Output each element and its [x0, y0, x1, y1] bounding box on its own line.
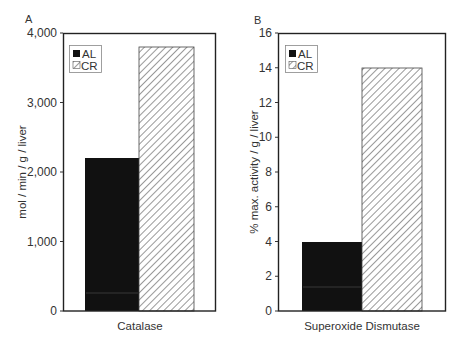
legend-label-al: AL — [298, 48, 313, 60]
legend-b: AL CR — [286, 46, 318, 73]
bar-al-sod — [302, 242, 362, 311]
panel-b-label: B — [254, 14, 261, 26]
y-ticks-a — [60, 33, 63, 311]
y-axis-label-b: % max. activity / g / liver — [248, 110, 260, 234]
y-tick-label: 2 — [265, 269, 272, 283]
legend-swatch-cr — [73, 62, 80, 69]
y-tick-labels-b: 0 2 4 6 8 10 12 14 16 — [259, 26, 273, 318]
y-ticks-b — [275, 33, 278, 311]
y-tick-label: 14 — [259, 61, 273, 75]
x-axis-label-a: Catalase — [117, 320, 162, 332]
legend-swatch-al — [289, 50, 296, 57]
y-tick-label: 6 — [265, 200, 272, 214]
y-tick-label: 2,000 — [27, 165, 57, 179]
y-tick-label: 16 — [259, 26, 273, 40]
legend-swatch-al — [73, 50, 80, 57]
panel-a: A 0 1,000 2,000 3,000 4,000 mol / min / … — [16, 13, 216, 332]
y-tick-label: 4 — [265, 235, 272, 249]
legend-label-al: AL — [82, 48, 97, 60]
legend-swatch-cr — [289, 62, 296, 69]
y-tick-labels-a: 0 1,000 2,000 3,000 4,000 — [27, 26, 57, 318]
legend-label-cr: CR — [81, 60, 98, 72]
y-tick-label: 4,000 — [27, 26, 57, 40]
y-tick-label: 3,000 — [27, 96, 57, 110]
figure: A 0 1,000 2,000 3,000 4,000 mol / min / … — [0, 0, 466, 337]
y-tick-label: 8 — [265, 165, 272, 179]
y-tick-label: 0 — [50, 304, 57, 318]
legend-a: AL CR — [70, 46, 102, 73]
bar-cr-catalase — [139, 47, 194, 311]
y-axis-label-a: mol / min / g / liver — [16, 125, 28, 218]
panel-b: B 0 2 4 6 8 10 12 14 16 — [248, 14, 446, 332]
y-tick-label: 10 — [259, 130, 273, 144]
y-tick-label: 1,000 — [27, 235, 57, 249]
panel-a-label: A — [25, 13, 33, 25]
x-axis-label-b: Superoxide Dismutase — [304, 320, 420, 332]
legend-label-cr: CR — [297, 60, 314, 72]
y-tick-label: 0 — [265, 304, 272, 318]
bar-cr-sod — [362, 68, 422, 311]
y-tick-label: 12 — [259, 96, 273, 110]
bar-al-catalase — [85, 158, 139, 311]
